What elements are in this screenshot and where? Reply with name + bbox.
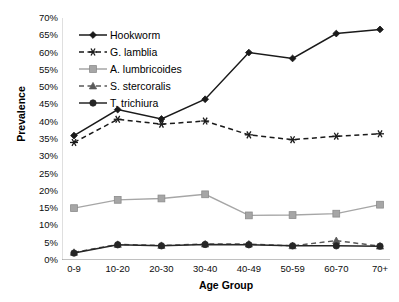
prevalence-by-age-chart: Prevalence 70%65%60%55%50%45%40%35%30%25… xyxy=(0,0,399,302)
y-axis-tick-label: 15% xyxy=(22,203,58,213)
series-a-lumbricoides xyxy=(71,191,384,219)
legend-swatch-square-icon xyxy=(78,62,108,76)
x-axis-tick-label: 50-59 xyxy=(280,263,304,275)
data-point-circle xyxy=(377,243,383,249)
y-axis-tick-label: 50% xyxy=(22,82,58,92)
x-axis-tick-labels: 0-910-2020-3030-4040-4950-5960-7070+ xyxy=(62,263,390,279)
data-point-circle xyxy=(202,241,208,247)
legend-swatch-circle-icon xyxy=(78,96,108,110)
x-axis-tick-label: 20-30 xyxy=(149,263,173,275)
legend-label: Hookworm xyxy=(110,29,160,41)
y-axis-tick-label: 25% xyxy=(22,169,58,179)
legend-item[interactable]: Hookworm xyxy=(78,26,228,43)
data-point-circle xyxy=(333,243,339,249)
data-point-square xyxy=(245,212,252,219)
data-point-diamond xyxy=(71,132,78,139)
y-axis-tick-labels: 70%65%60%55%50%45%40%35%30%25%20%15%10%5… xyxy=(22,0,58,302)
x-axis-tick-label: 60-70 xyxy=(324,263,348,275)
y-axis-tick-label: 30% xyxy=(22,151,58,161)
y-axis-tick-label: 35% xyxy=(22,134,58,144)
data-point-asterisk xyxy=(89,48,97,55)
data-point-circle xyxy=(246,242,252,248)
legend-swatch-diamond-icon xyxy=(78,28,108,42)
data-point-square xyxy=(377,201,384,208)
data-point-diamond xyxy=(377,26,384,33)
series-g-lamblia xyxy=(70,116,384,146)
data-point-square xyxy=(289,212,296,219)
data-point-asterisk xyxy=(114,116,122,123)
data-point-asterisk xyxy=(332,133,340,140)
legend-item[interactable]: G. lamblia xyxy=(78,43,228,60)
legend-item[interactable]: S. stercoralis xyxy=(78,77,228,94)
legend-label: A. lumbricoides xyxy=(110,63,182,75)
legend-swatch-triangle-icon xyxy=(78,79,108,93)
data-point-circle xyxy=(289,243,295,249)
y-axis-tick-label: 70% xyxy=(22,13,58,23)
data-point-asterisk xyxy=(201,118,209,125)
data-point-square xyxy=(158,195,165,202)
x-axis-tick-label: 30-40 xyxy=(193,263,217,275)
legend-label: S. stercoralis xyxy=(110,80,171,92)
y-axis-tick-label: 60% xyxy=(22,48,58,58)
y-axis-tick-label: 55% xyxy=(22,65,58,75)
legend-label: T. trichiura xyxy=(110,97,158,109)
data-point-circle xyxy=(71,250,77,256)
x-axis-tick-label: 40-49 xyxy=(237,263,261,275)
y-axis-tick-label: 45% xyxy=(22,99,58,109)
data-point-asterisk xyxy=(376,130,384,137)
y-axis-tick-label: 65% xyxy=(22,30,58,40)
y-axis-tick-label: 40% xyxy=(22,117,58,127)
data-point-asterisk xyxy=(289,136,297,143)
legend-swatch-asterisk-icon xyxy=(78,45,108,59)
data-point-asterisk xyxy=(70,139,78,146)
data-point-diamond xyxy=(333,30,340,37)
data-point-asterisk xyxy=(245,131,253,138)
data-point-square xyxy=(333,210,340,217)
data-point-square xyxy=(71,205,78,212)
data-point-circle xyxy=(158,243,164,249)
x-axis-tick-label: 70+ xyxy=(372,263,388,275)
data-point-square xyxy=(90,65,97,72)
y-axis-tick-label: 0% xyxy=(22,255,58,265)
data-point-diamond xyxy=(158,116,165,123)
data-point-circle xyxy=(90,99,96,105)
data-point-square xyxy=(114,196,121,203)
data-point-square xyxy=(202,191,209,198)
y-axis-tick-label: 20% xyxy=(22,186,58,196)
x-axis-title: Age Group xyxy=(62,279,390,291)
data-point-diamond xyxy=(90,31,97,38)
legend-item[interactable]: T. trichiura xyxy=(78,94,228,111)
x-axis-tick-label: 0-9 xyxy=(67,263,81,275)
data-point-circle xyxy=(115,242,121,248)
x-axis-tick-label: 10-20 xyxy=(106,263,130,275)
chart-legend: HookwormG. lambliaA. lumbricoidesS. ster… xyxy=(78,26,228,111)
y-axis-tick-label: 10% xyxy=(22,220,58,230)
legend-item[interactable]: A. lumbricoides xyxy=(78,60,228,77)
data-point-diamond xyxy=(289,55,296,62)
y-axis-tick-label: 5% xyxy=(22,238,58,248)
legend-label: G. lamblia xyxy=(110,46,157,58)
